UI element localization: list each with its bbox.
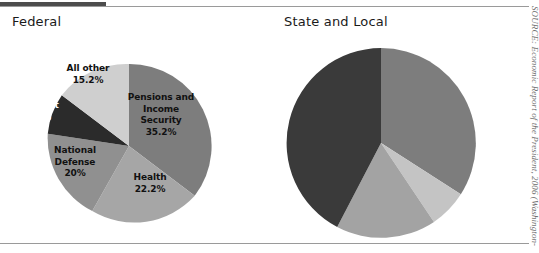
slice-label-pensions-income-security: Pensions and Income Security 35.2% xyxy=(119,92,203,138)
slice-label-national-defense: National Defense 20% xyxy=(42,145,108,180)
chart-panel-federal: Federal Pensions and Income Security 35.… xyxy=(0,0,270,243)
page-title-federal: Federal xyxy=(12,14,61,29)
page-title-state-local: State and Local xyxy=(284,14,388,29)
slice-label-health-federal: Health 22.2% xyxy=(122,172,178,195)
source-note: SOURCE: Economic Report of the President… xyxy=(527,0,539,253)
slice-label-all-other-federal: All other 15.2% xyxy=(55,63,121,86)
chart-panel-state-local: State and Local Education 34.1% Health a… xyxy=(270,0,515,243)
pie-chart-state-local xyxy=(285,47,477,239)
bottom-divider-rule xyxy=(0,243,529,244)
slice-label-interest: Interest 7.4% xyxy=(11,100,67,123)
source-note-text: SOURCE: Economic Report of the President… xyxy=(530,6,539,246)
